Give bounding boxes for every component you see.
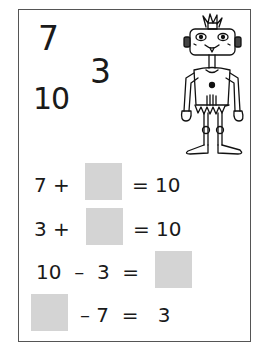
equation-2-left: 3 + — [34, 219, 70, 239]
equation-1-right: = 10 — [132, 175, 181, 195]
robot-icon — [178, 13, 246, 158]
number-seven: 7 — [38, 22, 59, 55]
answer-box-1[interactable] — [85, 163, 122, 200]
equation-2-right: = 10 — [133, 219, 182, 239]
answer-box-2[interactable] — [86, 208, 123, 245]
equation-4-right: – 7 = 3 — [80, 305, 170, 325]
answer-box-4[interactable] — [31, 294, 68, 331]
number-three: 3 — [90, 55, 111, 88]
equation-1-left: 7 + — [34, 175, 70, 195]
equation-3-left: 10 – 3 = — [36, 262, 139, 282]
number-ten: 10 — [33, 84, 69, 114]
answer-box-3[interactable] — [155, 251, 192, 288]
